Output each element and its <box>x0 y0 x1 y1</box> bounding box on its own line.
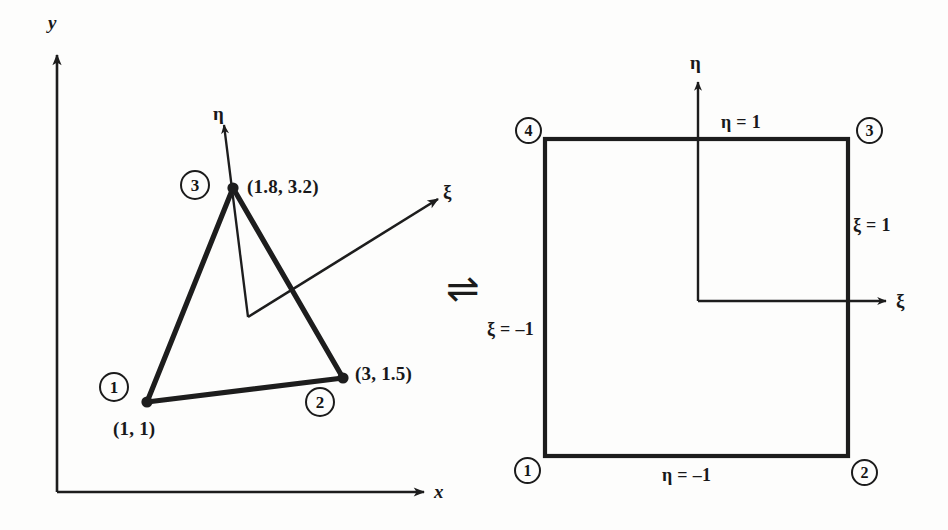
xi-axis-label-physical: ξ <box>443 182 451 201</box>
eta-axis-label-physical: η <box>213 104 224 123</box>
node-badge-2-parent: 2 <box>851 459 878 486</box>
local-axes-group-physical <box>224 125 438 317</box>
node-badge-4-parent: 4 <box>515 117 542 144</box>
xi-axis-label-parent: ξ <box>896 291 904 310</box>
node-badge-2-physical: 2 <box>305 387 335 417</box>
figure-canvas: y x η ξ 3 (1.8, 3.2) 1 (1, 1) 2 (3, 1.5)… <box>0 0 948 530</box>
node-badge-3-parent: 3 <box>856 117 883 144</box>
eta-axis-line-physical <box>224 125 248 317</box>
node-dot-2 <box>337 372 348 383</box>
y-axis-label: y <box>48 13 56 32</box>
node-badge-3-physical: 3 <box>180 170 210 200</box>
node-badge-1-parent: 1 <box>514 457 541 484</box>
eta-axis-label-parent: η <box>690 53 701 72</box>
node-dot-1 <box>141 396 152 407</box>
edge-label-eta-bottom: η = –1 <box>662 466 711 484</box>
parent-square-outline <box>545 139 848 456</box>
node-coord-2: (3, 1.5) <box>355 364 412 383</box>
node-coord-1: (1, 1) <box>113 419 155 438</box>
node-coord-3: (1.8, 3.2) <box>247 177 319 196</box>
node-dot-3 <box>227 182 238 193</box>
node-badge-1-physical: 1 <box>99 372 129 402</box>
mapping-equilibrium-arrows: ⇌ <box>446 268 480 308</box>
edge-label-eta-top: η = 1 <box>721 113 761 131</box>
x-axis-label: x <box>434 482 444 501</box>
edge-label-xi-left: ξ = –1 <box>487 320 534 338</box>
edge-label-xi-right: ξ = 1 <box>853 216 891 234</box>
parent-square-group <box>545 139 848 456</box>
